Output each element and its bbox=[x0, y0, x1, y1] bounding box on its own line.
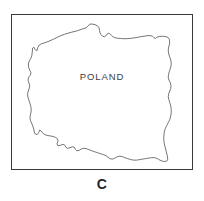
poland-country-outline-path bbox=[28, 24, 172, 162]
figure-caption-letter: C bbox=[0, 176, 204, 192]
map-frame: POLAND bbox=[11, 14, 193, 170]
country-name-label: POLAND bbox=[12, 71, 192, 82]
figure-panel: POLAND C bbox=[0, 0, 204, 201]
poland-map-svg bbox=[12, 15, 192, 169]
